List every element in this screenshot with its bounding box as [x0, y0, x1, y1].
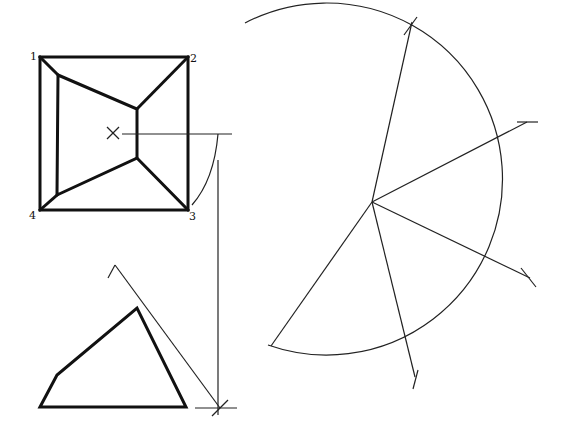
corner-edge-3	[137, 158, 188, 210]
development-ray-4	[372, 202, 415, 377]
plan-view: 1 2 3 4	[29, 50, 232, 223]
corner-label-1: 1	[30, 50, 37, 63]
elevation-view	[40, 160, 237, 416]
development-ray-2	[372, 122, 527, 202]
arc-tick-3	[521, 268, 536, 287]
technical-drawing-canvas: 1 2 3 4	[0, 0, 571, 433]
development-ray-1	[372, 22, 412, 202]
elevation-profile	[40, 308, 186, 407]
corner-label-4: 4	[29, 209, 36, 222]
center-mark-icon	[107, 127, 119, 139]
corner-label-2: 2	[190, 52, 197, 65]
inner-polygon	[57, 75, 137, 195]
construction-arc	[192, 134, 218, 205]
development-ray-3	[372, 202, 530, 278]
corner-edge-1	[40, 57, 58, 75]
corner-edge-4	[40, 195, 57, 210]
apex-tick	[108, 265, 115, 278]
arc-tick-1	[404, 17, 417, 35]
corner-edge-2	[137, 57, 188, 109]
true-length-line	[115, 265, 220, 408]
development-arc	[245, 3, 502, 355]
development-ray-5	[271, 202, 372, 346]
development-pattern	[245, 3, 538, 389]
corner-label-3: 3	[189, 210, 196, 223]
